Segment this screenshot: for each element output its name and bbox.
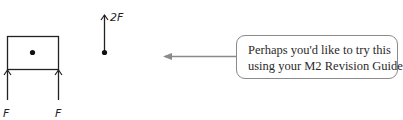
- revision-guide-callout: Perhaps you'd like to try this using you…: [236, 35, 398, 79]
- left-force-arrow-icon: [4, 70, 11, 100]
- point-force-label: 2F: [110, 11, 124, 24]
- right-force-label: F: [55, 107, 62, 120]
- left-force-label: F: [3, 107, 10, 120]
- callout-line-1: Perhaps you'd like to try this: [248, 42, 397, 58]
- point-force-arrow-icon: [101, 15, 108, 55]
- centre-of-mass-dot: [30, 50, 35, 55]
- callout-line-2: using your M2 Revision Guide?: [248, 58, 397, 74]
- right-force-arrow-icon: [55, 70, 62, 100]
- callout-pointer-arrow-icon: [163, 53, 236, 60]
